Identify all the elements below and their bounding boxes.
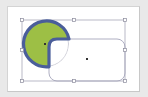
handle-middle-left[interactable] [21,49,24,52]
handle-top-right[interactable] [124,19,127,22]
handle-bottom-middle[interactable] [73,80,76,83]
handle-bottom-left[interactable] [21,80,24,83]
handle-top-middle[interactable] [73,19,76,22]
handle-bottom-right[interactable] [124,80,127,83]
handle-middle-right[interactable] [124,49,127,52]
diagram-canvas[interactable] [0,0,148,97]
circle-center-point [44,43,46,45]
rectangle-center-point [86,58,88,60]
handle-top-left[interactable] [21,19,24,22]
